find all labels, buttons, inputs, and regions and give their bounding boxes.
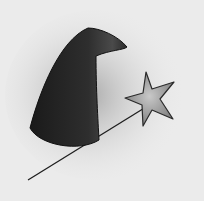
wizard-hat-star-wand-graphic: [0, 0, 204, 201]
illustration: [0, 0, 204, 201]
